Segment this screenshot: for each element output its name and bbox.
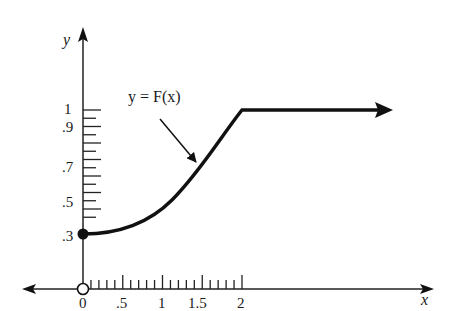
y-axis — [78, 27, 101, 289]
open-point-marker — [78, 284, 89, 295]
x-tick-label: 1 — [158, 295, 166, 311]
x-tick-label: 1.5 — [188, 295, 207, 311]
filled-point-marker — [78, 229, 89, 240]
x-tick-label: 0 — [79, 295, 87, 311]
annotation-pointer-arrow-icon — [160, 119, 196, 162]
x-axis-ticks — [91, 275, 242, 289]
curve-annotation: y = F(x) — [128, 88, 181, 106]
x-tick-label: .5 — [116, 295, 127, 311]
x-axis-label: x — [420, 291, 428, 308]
y-tick-label: .7 — [62, 159, 74, 175]
x-tick-label: 2 — [237, 295, 245, 311]
y-tick-label: 1 — [64, 101, 72, 117]
y-tick-label: .9 — [62, 119, 73, 135]
y-axis-ticks — [83, 110, 101, 217]
y-axis-label: y — [61, 31, 71, 49]
cdf-chart: y x 0 .5 1 1.5 2 1 .9 .7 .5 .3 y = F(x) — [0, 0, 458, 311]
y-tick-label: .5 — [62, 194, 73, 210]
y-tick-label: .3 — [62, 228, 73, 244]
cdf-curve — [83, 110, 388, 234]
